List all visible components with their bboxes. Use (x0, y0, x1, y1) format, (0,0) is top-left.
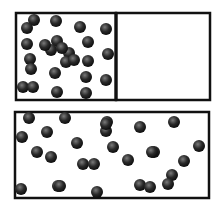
top-particle (27, 81, 39, 93)
bottom-particle (134, 179, 146, 191)
bottom-particle (23, 112, 35, 124)
bottom-particles (15, 112, 205, 198)
bottom-particle (146, 146, 158, 158)
top-particle (21, 22, 33, 34)
bottom-particle (88, 158, 100, 170)
bottom-particle (134, 121, 146, 133)
bottom-particle (168, 116, 180, 128)
bottom-particle (144, 181, 156, 193)
top-particle (39, 39, 51, 51)
bottom-container (15, 112, 209, 198)
top-particle (80, 71, 92, 83)
top-particles (17, 14, 114, 99)
top-particle (51, 86, 63, 98)
bottom-particle (15, 183, 27, 195)
top-particle (21, 38, 33, 50)
bottom-particle (71, 137, 83, 149)
bottom-particle (178, 155, 190, 167)
bottom-particle (31, 146, 43, 158)
top-particle (82, 36, 94, 48)
top-particle (49, 67, 61, 79)
top-particle (102, 48, 114, 60)
bottom-particle (162, 178, 174, 190)
bottom-particle (41, 126, 53, 138)
top-particle (100, 23, 112, 35)
top-particle (80, 87, 92, 99)
top-particle (74, 21, 86, 33)
gas-expansion-diagram (0, 0, 221, 215)
bottom-particle (107, 141, 119, 153)
bottom-particle (54, 180, 66, 192)
bottom-particle (45, 151, 57, 163)
top-particle (50, 15, 62, 27)
bottom-particle (91, 186, 103, 198)
top-particle (25, 63, 37, 75)
bottom-particle (122, 154, 134, 166)
bottom-particle (100, 118, 112, 130)
top-container (16, 13, 210, 100)
bottom-particle (59, 112, 71, 124)
bottom-particle (193, 140, 205, 152)
top-particle (68, 54, 80, 66)
top-particle (82, 55, 94, 67)
top-container-right-chamber-empty (116, 13, 210, 100)
bottom-particle (77, 158, 89, 170)
bottom-particle (16, 131, 28, 143)
top-particle (56, 42, 68, 54)
top-particle (100, 74, 112, 86)
